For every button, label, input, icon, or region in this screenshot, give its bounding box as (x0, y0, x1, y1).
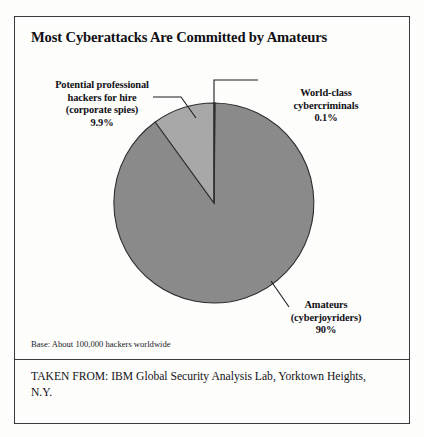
pie-label-amateurs: Amateurs (cyberjoyriders) 90% (263, 299, 389, 337)
pie-label-line-2: (cyberjoyriders) (291, 312, 362, 323)
pie-label-line-1: Amateurs (304, 299, 347, 310)
figure-frame: Most Cyberattacks Are Committed by Amate… (14, 16, 410, 424)
pie-label-line-2: hackers for hire (67, 92, 136, 103)
pie-label-line-2: cybercriminals (294, 100, 359, 111)
leader-line-world-class (214, 80, 258, 103)
pie-label-professional-hackers: Potential professional hackers for hire … (29, 79, 175, 129)
pie-label-percent: 0.1% (267, 112, 385, 125)
footer-divider (15, 359, 409, 360)
pie-label-line-1: World-class (300, 87, 351, 98)
pie-label-line-1: Potential professional (55, 79, 149, 90)
pie-label-line-3: (corporate spies) (66, 104, 138, 115)
pie-label-percent: 90% (263, 324, 389, 337)
base-note: Base: About 100,000 hackers worldwide (31, 339, 171, 350)
source-note: TAKEN FROM: IBM Global Security Analysis… (31, 369, 389, 401)
pie-slice-world-class (214, 103, 215, 203)
pie-slice-amateurs (114, 103, 314, 303)
chart-title: Most Cyberattacks Are Committed by Amate… (31, 29, 395, 46)
pie-label-world-class: World-class cybercriminals 0.1% (267, 87, 385, 125)
pie-label-percent: 9.9% (29, 117, 175, 130)
figure-page: Most Cyberattacks Are Committed by Amate… (0, 0, 424, 437)
